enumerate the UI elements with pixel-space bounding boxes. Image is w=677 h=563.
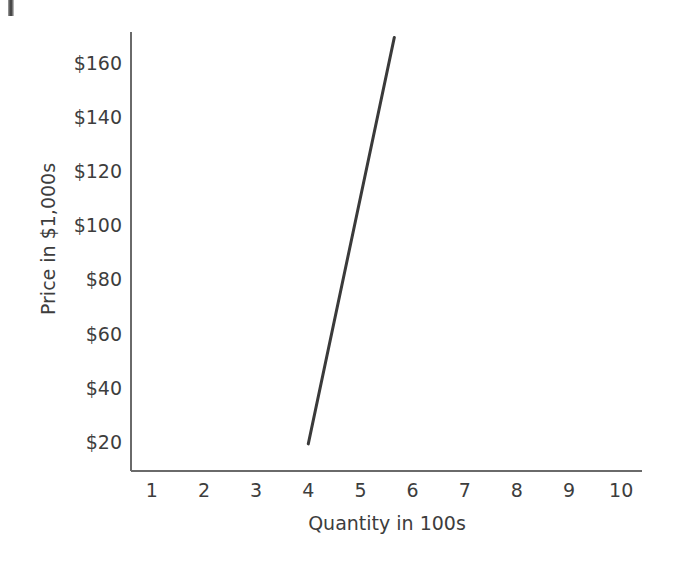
supply-curve-line (308, 37, 394, 443)
plot-area (0, 0, 677, 563)
chart-figure: Price in $1,000s $20$40$60$80$100$120$14… (0, 0, 677, 563)
